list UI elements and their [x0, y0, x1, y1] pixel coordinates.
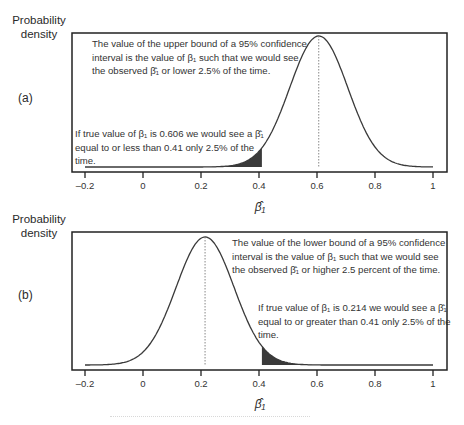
x-tick-label: 0.8 [368, 378, 381, 389]
x-tick-label: 0 [140, 180, 145, 191]
x-tick-label: 0.2 [194, 180, 207, 191]
x-tick-label: 0.4 [252, 180, 265, 191]
x-tick-label: 0.6 [310, 180, 323, 191]
plot-frame [72, 232, 447, 370]
cropped-caption-line [110, 416, 310, 421]
x-tick-label: –0.2 [76, 180, 95, 191]
shaded-tail-area [85, 148, 262, 167]
x-tick-label: 0.2 [194, 378, 207, 389]
x-tick-label: 0.6 [310, 378, 323, 389]
x-tick-label: 1 [430, 180, 435, 191]
panel-a-xlabel: β̂₁ [255, 200, 266, 214]
x-tick-label: 0.8 [368, 180, 381, 191]
plot-canvas [0, 0, 464, 425]
x-tick-label: –0.2 [76, 378, 95, 389]
density-curve [85, 36, 433, 167]
x-tick-label: 0.4 [252, 378, 265, 389]
density-curve [85, 237, 433, 365]
x-tick-label: 1 [430, 378, 435, 389]
panel-b-xlabel: β̂₁ [255, 397, 266, 411]
x-tick-label: 0 [140, 378, 145, 389]
